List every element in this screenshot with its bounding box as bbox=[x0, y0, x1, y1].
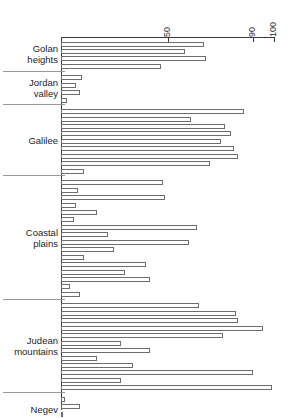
region-label-judean-mountains: Judean mountains bbox=[0, 335, 58, 357]
bar bbox=[61, 217, 74, 222]
bar bbox=[61, 195, 165, 200]
bar bbox=[61, 131, 231, 136]
bar bbox=[61, 109, 244, 114]
axis-tick-label-90: 90 bbox=[248, 27, 257, 37]
bar bbox=[61, 169, 84, 174]
bar bbox=[61, 203, 76, 208]
region-label-coastal-plains: Coastal plains bbox=[0, 227, 58, 249]
bar bbox=[61, 64, 161, 69]
group-separator bbox=[3, 175, 65, 176]
bar bbox=[61, 412, 63, 417]
axis-tick-label-50: 50 bbox=[163, 27, 172, 37]
bar bbox=[61, 363, 133, 368]
group-separator bbox=[3, 71, 65, 72]
axis-tick-100 bbox=[274, 37, 275, 42]
bar bbox=[61, 341, 121, 346]
bar bbox=[61, 83, 76, 88]
region-label-golan-heights: Golan heights bbox=[0, 43, 58, 65]
region-label-jordan-valley: Jordan valley bbox=[0, 77, 58, 99]
bar bbox=[61, 42, 204, 47]
bar bbox=[61, 348, 150, 353]
bar bbox=[61, 292, 80, 297]
bar bbox=[61, 124, 225, 129]
bar bbox=[61, 326, 263, 331]
group-separator bbox=[3, 392, 65, 393]
bar bbox=[61, 284, 70, 289]
horizontal-bar-chart: 5090100 Golan heightsJordan valleyGalile… bbox=[0, 0, 291, 418]
axis-tick-90 bbox=[253, 37, 254, 42]
bar bbox=[61, 303, 199, 308]
bar bbox=[61, 98, 67, 103]
bar bbox=[61, 385, 272, 390]
bar bbox=[61, 56, 206, 61]
bar bbox=[61, 262, 146, 267]
bar bbox=[61, 356, 97, 361]
bar bbox=[61, 404, 80, 409]
bar bbox=[61, 146, 234, 151]
bar bbox=[61, 161, 210, 166]
bar bbox=[61, 75, 82, 80]
bar bbox=[61, 255, 84, 260]
bar bbox=[61, 49, 185, 54]
bar bbox=[61, 154, 238, 159]
bar bbox=[61, 277, 150, 282]
bar bbox=[61, 90, 80, 95]
bar bbox=[61, 240, 189, 245]
region-label-galilee: Galilee bbox=[0, 135, 58, 146]
bar bbox=[61, 397, 65, 402]
bar bbox=[61, 188, 78, 193]
bar bbox=[61, 370, 253, 375]
group-separator bbox=[3, 299, 65, 300]
bar bbox=[61, 210, 97, 215]
region-label-negev: Negev bbox=[0, 404, 58, 415]
bar bbox=[61, 378, 121, 383]
bar bbox=[61, 247, 114, 252]
bar bbox=[61, 333, 223, 338]
bar bbox=[61, 318, 238, 323]
bar bbox=[61, 232, 108, 237]
bar bbox=[61, 180, 163, 185]
bar bbox=[61, 225, 197, 230]
bar bbox=[61, 117, 191, 122]
bar bbox=[61, 311, 236, 316]
axis-tick-label-100: 100 bbox=[269, 22, 278, 37]
group-separator bbox=[3, 104, 65, 105]
bar bbox=[61, 139, 221, 144]
bar bbox=[61, 270, 125, 275]
